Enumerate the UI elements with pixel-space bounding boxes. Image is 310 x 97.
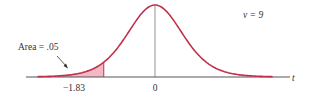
axis-label-t: t [292,73,295,83]
t-distribution-chart: Area = .05 ν = 9 t −1.83 0 [0,0,310,97]
tick-label-zero: 0 [153,83,158,93]
df-label: ν = 9 [243,10,263,20]
tick-label-critical: −1.83 [63,83,85,93]
area-annotation: Area = .05 [18,42,59,52]
